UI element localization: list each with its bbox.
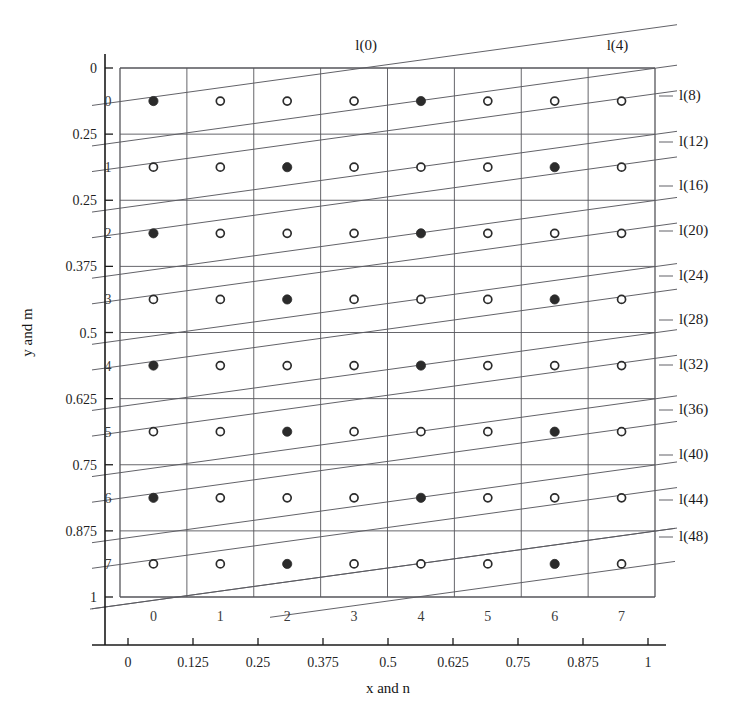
node-open [149,163,157,171]
x-cell-index-label: 1 [217,609,224,624]
node-open [216,362,224,370]
x-cell-index-label: 0 [150,609,157,624]
y-cell-index-label: 1 [105,160,112,175]
node-open [484,362,492,370]
y-axis-tick-label: 1 [90,590,97,605]
node-filled [149,229,158,238]
x-axis-tick-label: 0.5 [379,655,397,670]
node-filled [416,229,425,238]
diagonal-scan-line [92,289,677,370]
y-axis-tick-label: 0.625 [66,392,98,407]
x-cell-index-label: 2 [284,609,291,624]
lattice-diagram: 00.1250.250.3750.50.6250.750.8751x and n… [0,0,749,711]
x-cell-index-label: 3 [351,609,358,624]
node-filled [416,361,425,370]
node-open [149,560,157,568]
y-axis-tick-label: 0.5 [80,326,98,341]
y-cell-index-label: 5 [105,425,112,440]
node-open [216,97,224,105]
node-open [618,560,626,568]
x-axis-tick-label: 1 [645,655,652,670]
node-open [618,97,626,105]
node-open [551,97,559,105]
right-line-label: l(8) [679,87,701,104]
node-open [484,428,492,436]
node-open [216,428,224,436]
node-open [350,362,358,370]
diagonal-scan-line [92,223,677,304]
x-cell-index-label: 6 [551,609,558,624]
node-open [350,494,358,502]
diagonal-scan-line [92,421,677,502]
node-open [551,494,559,502]
right-line-label: l(28) [679,311,708,328]
node-open [417,295,425,303]
x-axis-tick-label: 0.125 [177,655,209,670]
x-axis-tick-label: 0.875 [567,655,599,670]
diagonal-scan-line [270,561,675,617]
node-filled [416,96,425,105]
node-filled [283,427,292,436]
node-filled [283,163,292,172]
y-cell-index-label: 7 [105,557,112,572]
node-filled [283,295,292,304]
x-cell-index-label: 7 [618,609,625,624]
diagonal-scan-line [92,25,677,106]
top-line-label: l(4) [607,37,629,54]
right-line-label: l(20) [679,222,708,239]
node-open [283,362,291,370]
node-open [618,362,626,370]
node-filled [149,361,158,370]
node-open [350,295,358,303]
x-axis-tick-label: 0.625 [437,655,469,670]
right-line-label: l(40) [679,446,708,463]
node-open [417,560,425,568]
node-open [484,163,492,171]
node-open [149,428,157,436]
node-open [283,97,291,105]
diagram-canvas: 00.1250.250.3750.50.6250.750.8751x and n… [0,0,749,711]
node-filled [550,559,559,568]
x-cell-index-label: 4 [417,609,424,624]
y-axis-tick-label: 0 [90,61,97,76]
diagonal-scan-line [92,91,677,172]
x-axis-title: x and n [366,680,411,696]
y-cell-index-label: 3 [105,292,112,307]
y-axis-tick-label: 0.25 [73,127,98,142]
node-open [484,229,492,237]
node-open [484,494,492,502]
node-open [417,428,425,436]
node-filled [149,493,158,502]
y-cell-index-label: 2 [105,226,112,241]
y-axis-tick-label: 0.375 [66,259,98,274]
diagonal-lines [90,25,677,618]
node-open [551,362,559,370]
y-axis-tick-label: 0.75 [73,458,98,473]
diagonal-scan-line [92,488,677,569]
node-open [618,229,626,237]
right-line-label: l(24) [679,267,708,284]
grid-lines [120,68,655,597]
node-open [216,295,224,303]
x-cell-index-label: 5 [484,609,491,624]
y-axis-title: y and m [19,308,35,357]
node-open [618,295,626,303]
node-open [216,229,224,237]
node-filled [550,427,559,436]
node-open [350,428,358,436]
node-open [350,229,358,237]
node-open [283,229,291,237]
node-open [484,560,492,568]
x-axis-tick-label: 0.25 [246,655,271,670]
right-line-label: l(44) [679,491,708,508]
right-line-label: l(32) [679,356,708,373]
diagonal-scan-line [92,355,677,436]
right-line-label: l(16) [679,177,708,194]
node-open [618,163,626,171]
node-open [618,428,626,436]
node-open [417,163,425,171]
node-filled [550,163,559,172]
right-line-label: l(48) [679,528,708,545]
node-open [484,295,492,303]
node-open [149,295,157,303]
